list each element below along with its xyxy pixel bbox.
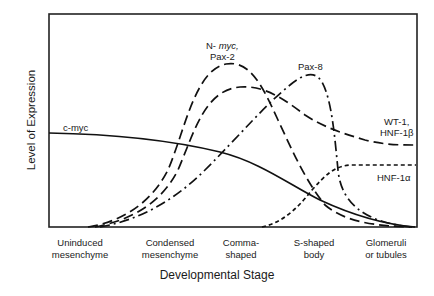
category-s-shaped-body: S-shaped body <box>274 237 354 261</box>
label-n-myc-pax-2: N- myc, Pax-2 <box>206 40 239 62</box>
label-pax-2: Pax-2 <box>210 51 235 62</box>
y-axis-title: Level of Expression <box>25 70 37 170</box>
curve-pax-8 <box>100 75 412 227</box>
category-line: body <box>274 249 354 261</box>
category-uninduced-mesenchyme: Uninduced mesenchyme <box>40 237 120 261</box>
curve-n-myc-pax-2 <box>88 64 412 227</box>
category-line: Comma- <box>201 237 281 249</box>
category-comma-shaped: Comma- shaped <box>201 237 281 261</box>
category-glomeruli-or-tubules: Glomeruli or tubules <box>346 237 426 261</box>
category-line: Glomeruli <box>346 237 426 249</box>
label-c-myc: c-myc <box>63 122 88 133</box>
label-n-myc-prefix: N- <box>206 40 216 51</box>
category-condensed-mesenchyme: Condensed mesenchyme <box>130 237 210 261</box>
category-line: Condensed <box>130 237 210 249</box>
category-line: or tubules <box>346 249 426 261</box>
label-hnf-1a: HNF-1α <box>377 172 410 183</box>
curve-c-myc <box>49 133 415 227</box>
category-line: S-shaped <box>274 237 354 249</box>
label-wt-1: WT-1, <box>384 116 409 127</box>
label-hnf-1b: HNF-1β <box>380 127 413 138</box>
curve-wt-1-hnf-1b <box>95 87 416 227</box>
x-axis-title: Developmental Stage <box>0 268 434 282</box>
label-n-myc-italic: myc, <box>219 40 239 51</box>
label-wt-1-hnf-1b: WT-1, HNF-1β <box>380 116 413 138</box>
category-line: Uninduced <box>40 237 120 249</box>
category-line: mesenchyme <box>40 249 120 261</box>
category-line: shaped <box>201 249 281 261</box>
category-line: mesenchyme <box>130 249 210 261</box>
label-pax-8: Pax-8 <box>298 61 323 72</box>
